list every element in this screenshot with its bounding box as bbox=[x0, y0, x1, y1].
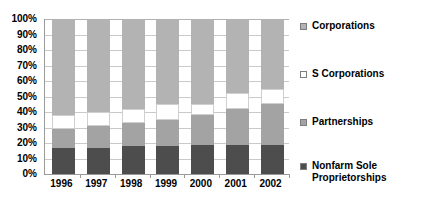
bar-segment bbox=[122, 109, 145, 123]
bar-segment bbox=[122, 146, 145, 174]
y-axis-tick-label: 30% bbox=[17, 123, 37, 133]
bar-segment bbox=[52, 148, 75, 174]
bar-column bbox=[156, 19, 179, 174]
bars-layer bbox=[45, 19, 289, 174]
bar-segment bbox=[191, 104, 214, 115]
bar-segment bbox=[261, 104, 284, 144]
bar-segment bbox=[226, 93, 249, 109]
y-axis-tick-label: 90% bbox=[17, 30, 37, 40]
y-axis-tick-label: 40% bbox=[17, 107, 37, 117]
bar-segment bbox=[261, 89, 284, 105]
bar-segment bbox=[87, 126, 110, 148]
legend-item[interactable]: Corporations bbox=[300, 20, 431, 32]
plot-area bbox=[44, 19, 289, 175]
legend-swatch-icon bbox=[300, 71, 307, 78]
y-axis-tick-label: 70% bbox=[17, 61, 37, 71]
bar-segment bbox=[191, 19, 214, 104]
legend-item-label: Partnerships bbox=[312, 116, 373, 128]
y-axis-tick-label: 100% bbox=[11, 14, 37, 24]
bar-column bbox=[226, 19, 249, 174]
bar-segment bbox=[156, 146, 179, 174]
x-axis: 1996199719981999200020012002 bbox=[44, 178, 288, 194]
bar-segment bbox=[122, 19, 145, 109]
bar-segment bbox=[156, 19, 179, 104]
bar-segment bbox=[52, 19, 75, 115]
y-axis-tick-label: 0% bbox=[23, 169, 37, 179]
bar-column bbox=[122, 19, 145, 174]
chart-container: 100%90%80%70%60%50%40%30%20%10%0% 199619… bbox=[0, 0, 431, 202]
bar-segment bbox=[226, 145, 249, 174]
legend-swatch-icon bbox=[300, 23, 307, 30]
bar-segment bbox=[87, 148, 110, 174]
bar-segment bbox=[191, 115, 214, 144]
legend-item[interactable]: S Corporations bbox=[300, 68, 431, 80]
y-axis-tick-label: 50% bbox=[17, 92, 37, 102]
y-axis-tick-label: 80% bbox=[17, 45, 37, 55]
bar-segment bbox=[156, 104, 179, 120]
bar-segment bbox=[87, 19, 110, 112]
bar-column bbox=[52, 19, 75, 174]
bar-segment bbox=[226, 109, 249, 145]
legend-item-label: Nonfarm Sole Proprietorships bbox=[312, 160, 386, 184]
legend-item[interactable]: Nonfarm Sole Proprietorships bbox=[300, 160, 431, 184]
y-axis-tick-label: 20% bbox=[17, 138, 37, 148]
legend-swatch-icon bbox=[300, 119, 307, 126]
y-axis: 100%90%80%70%60%50%40%30%20%10%0% bbox=[0, 14, 41, 175]
bar-column bbox=[261, 19, 284, 174]
legend-swatch-icon bbox=[300, 163, 307, 170]
bar-segment bbox=[261, 19, 284, 89]
y-axis-tick-label: 10% bbox=[17, 154, 37, 164]
bar-segment bbox=[52, 115, 75, 129]
bar-segment bbox=[87, 112, 110, 126]
bar-column bbox=[87, 19, 110, 174]
bar-segment bbox=[156, 120, 179, 146]
bar-segment bbox=[226, 19, 249, 93]
bar-column bbox=[191, 19, 214, 174]
bar-segment bbox=[122, 123, 145, 146]
bar-segment bbox=[261, 145, 284, 174]
y-axis-tick-label: 60% bbox=[17, 76, 37, 86]
chart-legend: CorporationsS CorporationsPartnershipsNo… bbox=[300, 20, 431, 180]
x-axis-tick-label: 2002 bbox=[251, 178, 291, 190]
legend-item-label: Corporations bbox=[312, 20, 375, 32]
legend-item[interactable]: Partnerships bbox=[300, 116, 431, 128]
legend-item-label: S Corporations bbox=[312, 68, 384, 80]
bar-segment bbox=[52, 129, 75, 148]
bar-segment bbox=[191, 145, 214, 174]
